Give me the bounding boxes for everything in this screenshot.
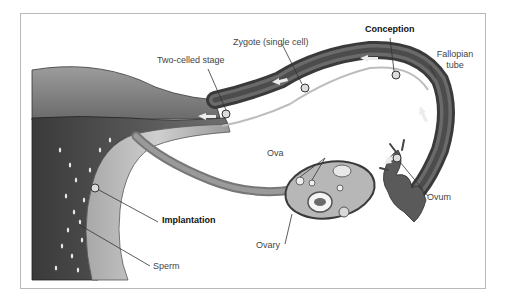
- ovary-shape: [281, 155, 379, 226]
- label-zygote: Zygote (single cell): [233, 37, 309, 48]
- label-conception: Conception: [365, 24, 415, 35]
- label-two-celled-stage: Two-celled stage: [157, 55, 225, 66]
- conception-cell: [392, 71, 400, 79]
- label-implantation: Implantation: [162, 215, 216, 226]
- label-ova: Ova: [267, 148, 284, 159]
- zygote-cell: [301, 84, 309, 92]
- label-fallopian-tube: Fallopian tube: [430, 49, 480, 71]
- ovum-cell: [393, 154, 401, 162]
- two-celled-cell: [222, 110, 230, 118]
- label-ovum: Ovum: [427, 192, 451, 203]
- label-ovary: Ovary: [256, 240, 280, 251]
- label-sperm: Sperm: [153, 261, 180, 272]
- implantation-cell: [91, 184, 99, 192]
- label-fallopian-line2: tube: [430, 60, 480, 71]
- label-fallopian-line1: Fallopian: [430, 49, 480, 60]
- uterus-fundus: [32, 67, 220, 120]
